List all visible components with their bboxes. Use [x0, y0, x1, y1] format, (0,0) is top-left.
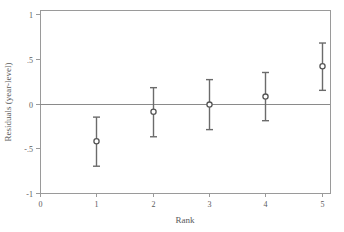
point-marker: [207, 102, 212, 107]
x-tick-label: 0: [39, 200, 43, 209]
y-tick-label: -1: [26, 190, 33, 199]
y-tick-label: 1: [29, 11, 33, 20]
y-axis-tick-labels: 1.50-.5-1: [24, 11, 33, 199]
point-marker: [320, 64, 325, 69]
data-point-with-ci: [206, 80, 213, 130]
y-tick-label: 0: [29, 101, 33, 110]
plot-frame: [41, 11, 331, 194]
data-point-with-ci: [319, 43, 326, 90]
x-tick-label: 5: [321, 200, 325, 209]
residuals-scatter-figure: 1.50-.5-1 012345 Residuals (year-level) …: [0, 0, 344, 232]
y-tick-label: -.5: [24, 145, 33, 154]
y-axis-ticks: [36, 15, 40, 194]
point-marker: [94, 139, 99, 144]
point-marker: [263, 94, 268, 99]
x-tick-label: 2: [152, 200, 156, 209]
x-axis-tick-labels: 012345: [39, 200, 325, 209]
y-tick-label: .5: [27, 56, 33, 65]
y-axis-title: Residuals (year-level): [3, 62, 13, 141]
x-tick-label: 3: [208, 200, 212, 209]
x-tick-label: 4: [264, 200, 268, 209]
data-point-with-ci: [150, 88, 157, 137]
data-point-with-ci: [262, 72, 269, 120]
data-point-with-ci: [93, 117, 100, 166]
x-tick-label: 1: [95, 200, 99, 209]
x-axis-title: Rank: [176, 215, 195, 225]
point-marker: [151, 109, 156, 114]
chart-canvas: 1.50-.5-1 012345 Residuals (year-level) …: [0, 0, 344, 232]
